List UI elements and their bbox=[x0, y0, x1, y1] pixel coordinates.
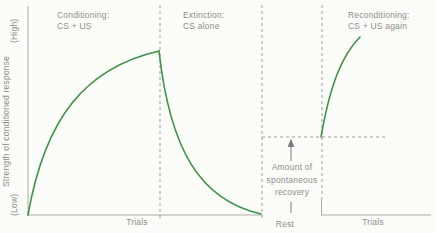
conditioning-phase-label: Conditioning: CS + US bbox=[57, 10, 109, 32]
x-axis-label-right: Trials bbox=[343, 217, 403, 228]
x-axis-label-left: Trials bbox=[107, 217, 167, 228]
conditioning-curve bbox=[28, 51, 159, 215]
rest-label: Rest bbox=[264, 219, 306, 230]
conditioning-extinction-figure: (High) Strength of conditioned response … bbox=[0, 0, 435, 233]
recovery-arrow-head-icon bbox=[288, 139, 295, 148]
reconditioning-curve bbox=[321, 37, 360, 137]
reconditioning-phase-label: Reconditioning: CS + US again bbox=[348, 10, 410, 32]
y-axis-low-label: (Low) bbox=[9, 194, 19, 216]
y-axis-high-label: (High) bbox=[9, 19, 19, 43]
plot-canvas bbox=[0, 0, 435, 233]
spontaneous-recovery-annotation: Amount of spontaneous recovery bbox=[257, 161, 327, 199]
extinction-curve bbox=[159, 51, 261, 214]
extinction-phase-label: Extinction: CS alone bbox=[183, 10, 224, 32]
y-axis-title: Strength of conditioned response bbox=[1, 56, 11, 187]
